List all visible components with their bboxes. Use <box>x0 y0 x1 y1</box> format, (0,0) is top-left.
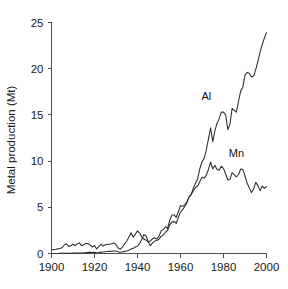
x-tick-label: 1940 <box>125 261 151 273</box>
y-axis-title: Metal production (Mt) <box>5 86 17 195</box>
y-tick-label: 25 <box>31 17 44 29</box>
x-tick-label: 1960 <box>168 261 194 273</box>
x-tick-label: 1920 <box>82 261 108 273</box>
y-tick-label: 20 <box>31 63 44 75</box>
series-annotation-al: Al <box>201 90 211 102</box>
data-series-group <box>52 33 267 254</box>
x-axis-tick-group: 190019201940196019802000 <box>39 254 280 273</box>
y-tick-label: 0 <box>37 248 43 260</box>
y-tick-label: 5 <box>37 201 43 213</box>
series-annotation-group: AlMn <box>201 90 244 159</box>
y-axis-tick-group: 0510152025 <box>31 17 52 260</box>
x-tick-label: 1900 <box>39 261 65 273</box>
series-annotation-mn: Mn <box>229 147 244 159</box>
x-tick-label: 1980 <box>211 261 237 273</box>
series-line-mn <box>52 162 267 250</box>
y-tick-label: 15 <box>31 109 44 121</box>
metal-production-line-chart: 0510152025 190019201940196019802000 AlMn… <box>0 0 288 289</box>
y-tick-label: 10 <box>31 155 44 167</box>
chart-figure: 0510152025 190019201940196019802000 AlMn… <box>0 0 288 289</box>
x-tick-label: 2000 <box>254 261 280 273</box>
series-line-al <box>52 33 267 254</box>
